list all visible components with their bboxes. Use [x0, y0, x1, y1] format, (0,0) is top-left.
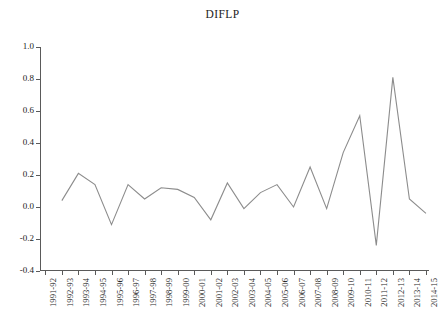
x-tick-mark [95, 271, 96, 275]
y-tick-label: 0.4 [23, 138, 34, 147]
x-tick-mark [78, 271, 79, 275]
x-tick-label: 2004-05 [264, 278, 273, 307]
y-tick-mark [36, 143, 40, 144]
page-title: DIFLP [0, 8, 445, 20]
x-tick-label: 1993-94 [82, 278, 91, 307]
x-tick-mark [343, 271, 344, 275]
x-tick-label: 2001-02 [215, 278, 224, 307]
x-tick-label: 2013-14 [413, 278, 422, 307]
y-tick-mark [36, 47, 40, 48]
x-tick-label: 1994-95 [99, 278, 108, 307]
chart-figure: DIFLP 1.00.80.60.40.20.0-0.2-0.4 1991-92… [0, 0, 445, 328]
data-line-svg [40, 47, 429, 271]
x-tick-label: 2011-12 [380, 278, 389, 307]
y-tick-mark [36, 79, 40, 80]
data-series-line [62, 77, 426, 245]
y-tick-mark [36, 175, 40, 176]
x-tick-mark [145, 271, 146, 275]
y-tick-label: 0.2 [23, 170, 34, 179]
x-tick-label: 2007-08 [314, 278, 323, 307]
x-tick-label: 1996-97 [132, 278, 141, 307]
x-tick-label: 2003-04 [248, 278, 257, 307]
x-tick-mark [244, 271, 245, 275]
x-tick-mark [277, 271, 278, 275]
x-tick-mark [112, 271, 113, 275]
y-tick-label: 0.0 [23, 202, 34, 211]
x-tick-label: 1997-98 [149, 278, 158, 307]
x-tick-label: 2000-01 [198, 278, 207, 307]
y-tick-mark [36, 271, 40, 272]
x-tick-label: 2012-13 [397, 278, 406, 307]
x-tick-label: 1995-96 [116, 278, 125, 307]
x-tick-label: 2009-10 [347, 278, 356, 307]
x-tick-label: 1998-99 [165, 278, 174, 307]
x-tick-label: 2006-07 [298, 278, 307, 307]
y-tick-mark [36, 207, 40, 208]
x-tick-label: 1992-93 [66, 278, 75, 307]
y-tick-label: 0.8 [23, 74, 34, 83]
y-tick-label: 1.0 [23, 42, 34, 51]
x-tick-mark [393, 271, 394, 275]
y-tick-label: -0.4 [20, 266, 34, 275]
x-tick-label: 1999-00 [182, 278, 191, 307]
x-tick-label: 2002-03 [231, 278, 240, 307]
x-tick-mark [45, 271, 46, 275]
y-tick-label: 0.6 [23, 106, 34, 115]
x-tick-mark [426, 271, 427, 275]
x-tick-mark [260, 271, 261, 275]
x-tick-mark [360, 271, 361, 275]
y-tick-mark [36, 239, 40, 240]
x-tick-mark [211, 271, 212, 275]
x-tick-mark [294, 271, 295, 275]
x-tick-label: 2005-06 [281, 278, 290, 307]
x-tick-mark [227, 271, 228, 275]
x-tick-label: 2010-11 [364, 278, 373, 307]
y-tick-mark [36, 111, 40, 112]
plot-area [40, 47, 429, 271]
x-tick-label: 2014-15 [430, 278, 439, 307]
x-tick-mark [178, 271, 179, 275]
y-tick-label: -0.2 [20, 234, 34, 243]
x-tick-mark [62, 271, 63, 275]
y-axis-tick-labels: 1.00.80.60.40.20.0-0.2-0.4 [0, 0, 34, 328]
x-tick-label: 1991-92 [49, 278, 58, 307]
x-tick-label: 2008-09 [331, 278, 340, 307]
x-tick-mark [310, 271, 311, 275]
x-tick-mark [409, 271, 410, 275]
x-tick-mark [194, 271, 195, 275]
x-tick-mark [327, 271, 328, 275]
x-tick-mark [161, 271, 162, 275]
x-tick-mark [128, 271, 129, 275]
x-tick-mark [376, 271, 377, 275]
